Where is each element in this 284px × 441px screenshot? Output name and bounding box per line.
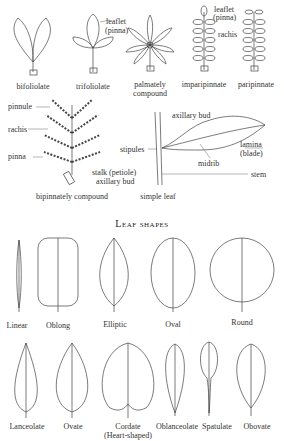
label-trifoliolate: trifoliolate — [76, 82, 110, 91]
label-shape-ovate: Ovate — [63, 422, 82, 431]
label-shape-lanceolate: Lanceolate — [9, 422, 44, 431]
palmately-compound-illustration — [126, 15, 174, 71]
shapes-row2-illustration — [15, 342, 266, 418]
label-axillary-bud: axillary bud — [172, 111, 210, 120]
caption-simple-leaf: simple leaf — [140, 192, 175, 201]
label-shape-oval: Oval — [165, 320, 181, 329]
label-palmately: palmately — [134, 80, 166, 89]
label-shape-cordate: Cordate — [115, 422, 140, 431]
label-rachis-top: rachis — [218, 30, 237, 39]
label-imparipinnate: imparipinnate — [182, 80, 226, 89]
label-pinna-2: (pinna) — [213, 13, 236, 22]
caption-bipinnately-compound: bipinnately compound — [36, 192, 108, 201]
label-pinna: (pinna) — [105, 26, 128, 35]
bifoliolate-illustration — [14, 18, 50, 75]
paripinnate-illustration — [243, 10, 265, 71]
label-shape-linear: Linear — [7, 321, 28, 330]
label-bifoliolate: bifoliolate — [17, 82, 50, 91]
bipinnate-illustration — [28, 100, 100, 185]
label-midrib: midrib — [198, 159, 219, 168]
label-shape-oblanceolate: Oblanceolate — [156, 422, 198, 431]
label-stipules: stipules — [120, 145, 144, 154]
label-pinnule: pinnule — [8, 102, 32, 111]
label-lamina: lamina — [240, 140, 262, 149]
label-heart-shaped: (Heart-shaped) — [104, 431, 152, 440]
label-shape-oblong: Oblong — [46, 321, 70, 330]
label-shape-round: Round — [231, 318, 252, 327]
section-title-leaf-shapes: Leaf shapes — [115, 218, 168, 229]
label-paripinnate: paripinnate — [238, 80, 274, 89]
label-axillary-bud-bip: axillary bud — [96, 177, 134, 186]
label-stem: stem — [251, 170, 266, 179]
label-shape-obovate: Obovate — [243, 422, 270, 431]
shapes-row1-illustration — [17, 238, 274, 312]
label-shape-spatulate: Spatulate — [202, 422, 232, 431]
label-blade: (blade) — [240, 149, 263, 158]
label-palmately-compound: compound — [133, 89, 167, 98]
imparipinnate-illustration — [193, 6, 215, 71]
label-leaflet: leaflet — [106, 17, 126, 26]
label-pinna-bip: pinna — [8, 152, 26, 161]
label-rachis: rachis — [8, 125, 27, 134]
label-stalk-petiole: stalk (petiole) — [92, 168, 136, 177]
label-shape-elliptic: Elliptic — [103, 320, 127, 329]
